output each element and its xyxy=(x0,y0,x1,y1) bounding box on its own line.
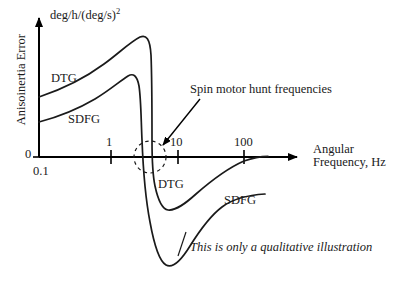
hunt-frequency-annotation-label: Spin motor hunt frequencies xyxy=(190,83,332,96)
x-tick-label-10: 10 xyxy=(170,136,183,149)
y-axis-zero-label: 0 xyxy=(25,148,31,161)
y-axis-unit-exponent: 2 xyxy=(116,6,120,16)
x-axis-title: Angular Frequency, Hz xyxy=(313,143,386,170)
x-axis-title-line2: Frequency, Hz xyxy=(313,155,386,169)
x-axis-origin-label: 0.1 xyxy=(33,165,49,178)
curve-label-sdfg-lower: SDFG xyxy=(224,194,256,207)
curve-label-dtg-lower: DTG xyxy=(158,178,184,191)
x-tick-label-100: 100 xyxy=(234,136,253,149)
y-axis-title: Anisoinertia Error xyxy=(15,20,28,140)
x-axis-title-line1: Angular xyxy=(313,142,354,156)
x-tick-label-1: 1 xyxy=(106,136,112,149)
curve-label-sdfg-upper: SDFG xyxy=(68,113,100,126)
y-axis-unit-label: deg/h/(deg/s)2 xyxy=(50,9,120,22)
curve-label-dtg-upper: DTG xyxy=(51,72,77,85)
anisoinertia-error-chart: deg/h/(deg/s)2 Anisoinertia Error Angula… xyxy=(0,0,410,284)
qualitative-illustration-caption: This is only a qualitative illustration xyxy=(190,241,372,254)
y-axis-unit-text: deg/h/(deg/s) xyxy=(50,8,116,22)
